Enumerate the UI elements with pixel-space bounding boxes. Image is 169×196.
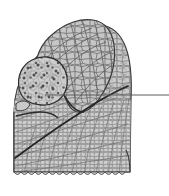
- figure-root: [0, 0, 169, 196]
- specimen-illustration: [0, 0, 169, 196]
